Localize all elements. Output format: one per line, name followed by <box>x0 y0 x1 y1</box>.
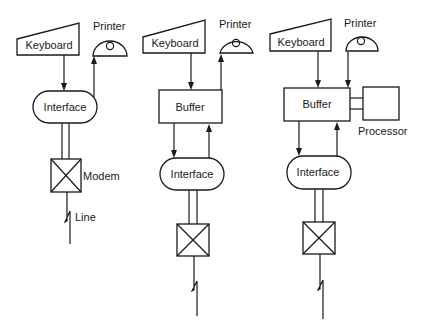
panel-3: Keyboard Printer Buffer Processor <box>270 17 408 319</box>
modem-1: Modem <box>51 159 120 192</box>
printer-2: Printer <box>219 18 253 53</box>
line-1-label: Line <box>75 211 96 223</box>
buffer-3: Buffer <box>284 88 350 121</box>
keyboard-3-label: Keyboard <box>277 36 324 48</box>
printer-3-label: Printer <box>344 17 377 29</box>
printer-1: Printer <box>93 20 127 56</box>
keyboard-2-label: Keyboard <box>151 37 198 49</box>
panel-1: Keyboard Printer Interface Modem <box>17 20 127 244</box>
keyboard-1-label: Keyboard <box>25 39 72 51</box>
processor-3: Processor <box>358 87 408 137</box>
keyboard-1: Keyboard <box>17 23 79 55</box>
interface-2: Interface <box>160 158 224 190</box>
line-2 <box>192 256 197 316</box>
modem-1-label: Modem <box>83 170 120 182</box>
buffer-2-label: Buffer <box>175 101 204 113</box>
buffer-2: Buffer <box>159 90 222 123</box>
interface-1-label: Interface <box>44 101 87 113</box>
printer-3: Printer <box>344 17 378 51</box>
interface-1: Interface <box>33 91 97 123</box>
modem-3 <box>303 222 335 254</box>
panel-2: Keyboard Printer Buffer Interface <box>143 18 253 316</box>
interface-3-label: Interface <box>297 166 340 178</box>
buffer-3-label: Buffer <box>302 98 331 110</box>
interface-2-label: Interface <box>171 168 214 180</box>
diagram-canvas: Keyboard Printer Interface Modem <box>0 0 421 333</box>
interface-3: Interface <box>287 156 351 189</box>
keyboard-3: Keyboard <box>270 19 331 51</box>
printer-1-label: Printer <box>93 20 126 32</box>
line-3 <box>318 254 323 319</box>
modem-2 <box>177 224 209 256</box>
keyboard-2: Keyboard <box>143 20 205 53</box>
line-1: Line <box>65 192 96 244</box>
printer-2-label: Printer <box>219 18 252 30</box>
processor-3-label: Processor <box>358 125 408 137</box>
